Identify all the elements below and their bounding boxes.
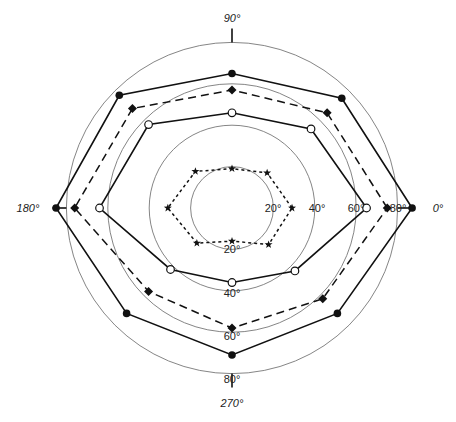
open-circle-marker-icon [307, 125, 315, 133]
polar-chart: 90° 270° 180° 0° 20° 40° 60° 80° 20° 40°… [0, 0, 456, 422]
angle-label-180: 180° [17, 202, 40, 214]
angle-label-0: 0° [433, 202, 444, 214]
open-circle-marker-icon [167, 266, 175, 274]
ring-label-right-80: 80° [390, 202, 407, 214]
open-circle-marker-icon [228, 109, 236, 117]
angle-label-270: 270° [220, 397, 244, 409]
series-line [100, 113, 367, 283]
ring-label-bottom-40: 40° [224, 287, 241, 299]
star-marker-icon [288, 204, 296, 212]
data-series [52, 70, 416, 359]
angle-label-90: 90° [224, 12, 241, 24]
filled-circle-marker-icon [52, 204, 60, 212]
ring-label-right-60: 60° [348, 202, 365, 214]
diamond-marker-icon [228, 86, 237, 95]
star-marker-icon [193, 239, 201, 247]
filled-circle-marker-icon [123, 310, 131, 318]
ring-label-right-40: 40° [309, 202, 326, 214]
star-marker-icon [263, 169, 271, 177]
ring-label-right-20: 20° [265, 202, 282, 214]
filled-circle-marker-icon [228, 70, 236, 78]
star-marker-icon [228, 164, 236, 172]
ring-label-bottom-20: 20° [224, 243, 241, 255]
filled-circle-marker-icon [334, 310, 342, 318]
open-circle-marker-icon [145, 121, 153, 129]
ring-label-bottom-80: 80° [224, 373, 241, 385]
open-circle-marker-icon [291, 267, 299, 275]
ring-label-bottom-60: 60° [224, 330, 241, 342]
star-marker-icon [191, 167, 199, 175]
filled-circle-marker-icon [115, 91, 123, 99]
filled-circle-marker-icon [408, 204, 416, 212]
diamond-marker-icon [323, 108, 332, 117]
series-open-circle [96, 109, 371, 286]
open-circle-marker-icon [96, 204, 104, 212]
filled-circle-marker-icon [228, 351, 236, 359]
filled-circle-marker-icon [338, 94, 346, 102]
open-circle-marker-icon [228, 279, 236, 287]
diamond-marker-icon [128, 104, 137, 113]
